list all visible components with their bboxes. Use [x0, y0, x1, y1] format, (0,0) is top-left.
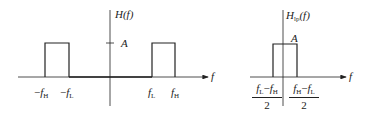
- tick-subscript: L: [151, 92, 155, 100]
- tick-label-fL: fL: [148, 87, 155, 100]
- tick-label-neg-fH: −fH: [34, 87, 48, 100]
- left-negative-passband: [45, 43, 69, 77]
- right-x-axis-label: f: [349, 71, 352, 82]
- left-amplitude-label: A: [121, 38, 128, 49]
- right-lowpass-band: [273, 44, 297, 77]
- tick-subscript: L: [69, 92, 73, 100]
- fraction-numerator: fL−fH: [252, 83, 282, 98]
- tick-label-neg-fL: −fL: [60, 87, 74, 100]
- tick-label-fH: fH: [171, 87, 179, 100]
- fraction-denominator: 2: [289, 98, 319, 111]
- tick-subscript: H: [43, 92, 48, 100]
- tick-subscript: H: [174, 92, 179, 100]
- left-fraction-label: fL−fH 2: [252, 83, 282, 111]
- label-tail: (f): [299, 9, 309, 21]
- right-y-axis-label: Hlp(f): [286, 10, 310, 23]
- right-amplitude-label: A: [291, 33, 298, 44]
- left-positive-passband: [152, 43, 175, 77]
- left-x-axis-label: f: [211, 71, 214, 82]
- left-y-axis-label: H(f): [115, 9, 133, 20]
- fraction-denominator: 2: [252, 98, 282, 111]
- label-base: H: [286, 9, 294, 21]
- fraction-numerator: fH−fL: [289, 83, 319, 98]
- right-fraction-label: fH−fL 2: [289, 83, 319, 111]
